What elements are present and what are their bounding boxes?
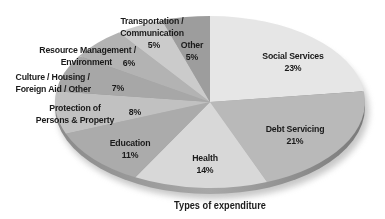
- slice-pct: 11%: [102, 149, 157, 161]
- label-culture-pct: 7%: [109, 82, 127, 94]
- slice-name-line1: Culture / Housing /: [16, 71, 97, 83]
- chart-title: Types of expenditure: [156, 200, 285, 211]
- slice-name-line1: Resource Management /: [38, 44, 136, 56]
- label-debt-servicing: Debt Servicing 21%: [254, 123, 337, 147]
- slice-pct: 23%: [252, 62, 335, 74]
- label-transportation-pct: 5%: [145, 39, 163, 51]
- label-other: Other 5%: [178, 39, 206, 63]
- label-protection: Protection of Persons & Property: [34, 102, 117, 126]
- slice-pct: 14%: [182, 164, 228, 176]
- slice-pct: 21%: [254, 135, 337, 147]
- label-social-services: Social Services 23%: [252, 50, 335, 74]
- slice-name: Other: [181, 39, 203, 50]
- slice-pct: 5%: [178, 51, 206, 63]
- slice-name: Debt Servicing: [266, 123, 325, 134]
- slice-name: Education: [110, 137, 151, 148]
- slice-name: Health: [192, 152, 218, 163]
- label-resource-pct: 6%: [120, 57, 138, 69]
- slice-name-line1: Transportation /: [115, 15, 189, 27]
- slice-name-line2: Communication: [115, 27, 189, 39]
- slice-name-line2: Persons & Property: [34, 114, 117, 126]
- label-protection-pct: 8%: [126, 106, 144, 118]
- slice-name-line2: Foreign Aid / Other: [16, 83, 97, 95]
- label-education: Education 11%: [102, 137, 157, 161]
- label-culture: Culture / Housing / Foreign Aid / Other: [16, 71, 97, 95]
- label-transportation: Transportation / Communication: [115, 15, 189, 39]
- slice-name-line1: Protection of: [34, 102, 117, 114]
- slice-name: Social Services: [262, 50, 323, 61]
- label-health: Health 14%: [182, 152, 228, 176]
